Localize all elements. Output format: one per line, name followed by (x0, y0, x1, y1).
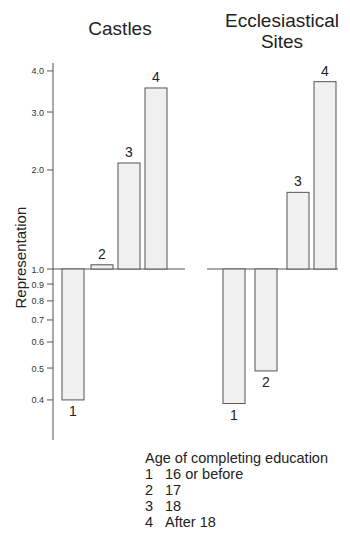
bar-label: 3 (294, 173, 302, 189)
y-tick-label: 0.4 (31, 395, 44, 405)
bar (287, 192, 309, 269)
bar-label: 2 (262, 374, 270, 390)
y-tick-label: 0.7 (31, 315, 44, 325)
y-tick-label: 4.0 (31, 66, 44, 76)
bar (91, 265, 113, 269)
legend-entry: 1 16 or before (145, 466, 328, 482)
y-tick-label: 0.5 (31, 364, 44, 374)
legend-label: 18 (165, 498, 181, 514)
y-tick-label: 2.0 (31, 165, 44, 175)
bar (145, 88, 167, 269)
legend-entry: 4 After 18 (145, 514, 328, 530)
bar-label: 2 (98, 246, 106, 262)
bar (223, 269, 245, 404)
legend-title: Age of completing education (145, 450, 328, 466)
legend-label: After 18 (165, 514, 216, 530)
y-tick-label: 0.9 (31, 280, 44, 290)
bar-label: 4 (152, 69, 160, 85)
legend-label: 17 (165, 482, 181, 498)
legend-key: 2 (145, 482, 165, 498)
legend-key: 4 (145, 514, 165, 530)
bar-label: 1 (69, 403, 77, 419)
legend-entry: 2 17 (145, 482, 328, 498)
legend-key: 3 (145, 498, 165, 514)
y-tick-label: 0.8 (31, 296, 44, 306)
bar-label: 4 (321, 63, 329, 79)
bar (118, 163, 140, 269)
y-tick-label: 3.0 (31, 108, 44, 118)
bar-label: 3 (125, 144, 133, 160)
bar-label: 1 (230, 407, 238, 423)
y-tick-label: 1.0 (31, 265, 44, 275)
bar (255, 269, 277, 371)
legend-label: 16 or before (165, 466, 243, 482)
legend: Age of completing education 1 16 or befo… (145, 450, 328, 530)
bar (62, 269, 84, 400)
legend-key: 1 (145, 466, 165, 482)
y-tick-label: 0.6 (31, 337, 44, 347)
bar (314, 82, 336, 269)
legend-entry: 3 18 (145, 498, 328, 514)
